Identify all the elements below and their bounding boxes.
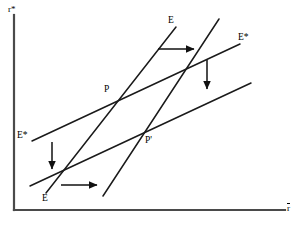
x-axis-label: r: [287, 203, 290, 213]
point-label-p-prime: P': [145, 136, 152, 146]
curve-estar-shifted: [30, 83, 251, 186]
curve-label-ee-shifted: E: [42, 194, 48, 204]
y-axis-label: r*: [8, 5, 16, 14]
curve-label-estar-shifted: E*: [238, 33, 249, 43]
diagram-canvas: [0, 0, 305, 225]
point-label-p: P: [104, 85, 109, 95]
x-axis-label-text: r: [287, 203, 290, 213]
curve-label-ee-original: E: [168, 16, 174, 26]
curve-estar-original: [32, 44, 240, 141]
economics-diagram: r* r E E E* E* P P': [0, 0, 305, 225]
curve-label-estar-original: E*: [17, 131, 28, 141]
curve-ee-original: [46, 27, 176, 193]
curve-group: [30, 19, 251, 196]
